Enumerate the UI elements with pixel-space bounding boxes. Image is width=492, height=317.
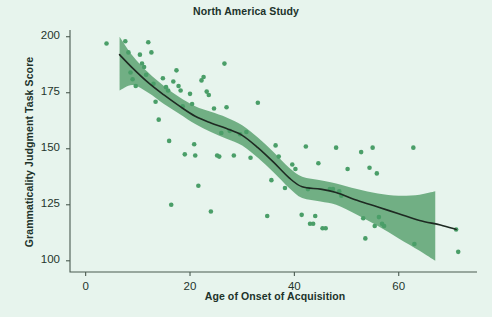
data-point [178,88,183,93]
data-point [313,214,318,219]
data-point [269,178,274,183]
data-point [370,145,375,150]
data-point [128,70,133,75]
data-point [248,155,253,160]
data-point [273,143,278,148]
chart-figure: North America Study 100125150175200 0204… [0,0,492,317]
data-point [361,216,366,221]
data-point [311,222,316,227]
data-point [130,77,135,82]
data-point [382,224,387,229]
data-point [133,84,138,89]
confidence-band-group [120,37,436,261]
data-point [456,250,461,255]
data-point [334,145,339,150]
data-point [174,68,179,73]
data-point [372,224,377,229]
data-point [293,167,298,172]
data-point [412,242,417,247]
data-point [167,139,172,144]
data-point [375,171,380,176]
data-point [323,226,328,231]
data-point [169,202,174,207]
data-point [142,65,147,70]
data-point [149,50,154,55]
data-point [207,93,212,98]
data-point [126,50,131,55]
data-point [299,213,304,218]
data-point [244,130,249,135]
data-point [166,88,171,93]
data-point [104,41,109,46]
data-point [290,162,295,167]
data-point [377,215,382,220]
data-point [283,186,288,191]
data-point [192,142,197,147]
data-point [359,150,364,155]
data-point [146,40,151,45]
data-point [276,154,281,159]
data-point [144,73,149,78]
data-point [316,161,321,166]
data-point [188,92,193,97]
data-point [217,154,222,159]
data-point [212,106,217,111]
data-point [256,101,261,106]
data-point [176,84,181,89]
data-point [209,209,214,214]
data-point [156,117,161,122]
data-point [367,166,372,171]
data-point [222,61,227,66]
data-point [138,52,143,57]
data-point [265,214,270,219]
data-point [153,99,158,104]
data-point [123,39,128,44]
data-point [201,75,206,80]
data-point [224,105,229,110]
data-point [219,131,224,136]
x-axis-label: Age of Onset of Acquisition [70,290,480,302]
data-point [304,144,309,149]
data-point [193,153,198,158]
data-point [171,79,176,84]
data-point [411,145,416,150]
data-point [363,236,368,241]
plot-area [0,0,492,317]
data-point [161,76,166,81]
data-point [345,167,350,172]
data-point [196,183,201,188]
confidence-band [120,37,436,261]
data-point [232,153,237,158]
data-point [182,152,187,157]
data-point [190,102,195,107]
y-axis-label: Grammaticality Judgment Task Score [23,27,35,277]
